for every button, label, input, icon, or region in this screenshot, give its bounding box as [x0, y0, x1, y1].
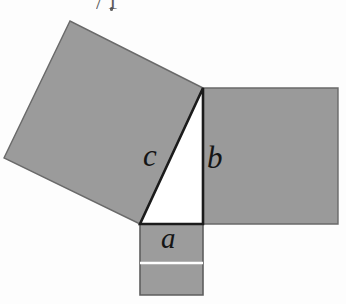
pythagorean-diagram [0, 0, 346, 304]
label-leg-b: b [207, 142, 223, 173]
label-hypotenuse-c: c [143, 140, 157, 171]
figure-canvas: /1 c b a [0, 0, 346, 304]
square-on-leg-b [203, 88, 338, 224]
label-leg-a: a [161, 224, 176, 253]
